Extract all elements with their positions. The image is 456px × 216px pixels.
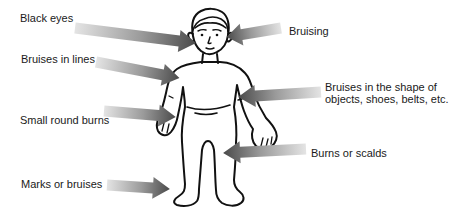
left-eye (201, 34, 204, 37)
label-bruises-shape: Bruises in the shape of objects, shoes, … (325, 81, 449, 105)
abuse-signs-diagram: Black eyes Bruising Bruises in lines Bru… (0, 0, 456, 216)
arrow-black-eyes (74, 17, 198, 54)
figure-body-outline (157, 62, 277, 206)
label-burns-or-scalds: Burns or scalds (311, 147, 387, 159)
label-bruises-in-lines: Bruises in lines (21, 53, 95, 65)
label-black-eyes: Black eyes (20, 12, 73, 24)
right-eye (216, 34, 219, 37)
label-bruising: Bruising (289, 25, 329, 37)
label-bruises-shape-line1: Bruises in the shape of (325, 81, 449, 93)
arrow-bruising (225, 17, 283, 48)
arrow-marks-or-bruises (106, 174, 170, 200)
label-bruises-shape-line2: objects, shoes, belts, etc. (325, 93, 449, 105)
label-marks-or-bruises: Marks or bruises (21, 178, 102, 190)
label-small-round-burns: Small round burns (20, 114, 109, 126)
